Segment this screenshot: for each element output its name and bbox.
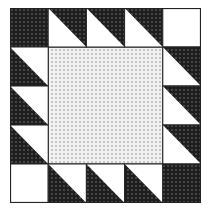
quilt-cell-tri-bl-dark	[10, 125, 48, 164]
center-square	[48, 47, 163, 164]
quilt-cell-tri-tr-dark	[163, 47, 201, 86]
quilt-cell-tri-bl-dark	[10, 47, 48, 86]
quilt-cell-white	[163, 8, 201, 47]
quilt-cell-tri-tr-dark	[163, 86, 201, 125]
quilt-block-drawing	[10, 8, 201, 203]
quilt-cell-dark	[163, 164, 201, 203]
quilt-cell-tri-tr-dark	[86, 8, 124, 47]
quilt-cell-white	[10, 164, 48, 203]
quilt-cell-tri-tr-dark	[163, 125, 201, 164]
quilt-cell-dark	[10, 8, 48, 47]
quilt-cell-tri-tr-dark	[125, 8, 163, 47]
quilt-cell-tri-bl-dark	[10, 86, 48, 125]
quilt-cell-tri-tr-dark	[48, 8, 86, 47]
quilt-cell-tri-bl-dark	[125, 164, 163, 203]
quilt-block	[10, 8, 201, 203]
quilt-cell-tri-bl-dark	[86, 164, 124, 203]
quilt-cell-tri-bl-dark	[48, 164, 86, 203]
